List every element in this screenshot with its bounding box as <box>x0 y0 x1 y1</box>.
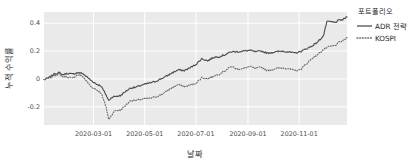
legend-label-adr-strategy: ADR 전략 <box>375 22 407 31</box>
y-tick-label: 0 <box>36 75 40 83</box>
chart-legend: 포트폴리오 ADR 전략 KOSPI <box>357 7 407 43</box>
y-axis-label: 누적 수익률 <box>4 47 14 90</box>
x-tick-label: 2020-05-01 <box>126 130 163 138</box>
y-axis-ticks: -0.200.20.4 <box>28 19 40 111</box>
x-tick-label: 2020-09-01 <box>229 130 266 138</box>
x-axis-label: 날짜 <box>187 149 203 159</box>
cumulative-return-line-chart: -0.200.20.4 2020-03-012020-05-012020-07-… <box>0 0 412 163</box>
y-tick-label: 0.4 <box>30 19 40 27</box>
y-tick-label: 0.2 <box>30 47 40 55</box>
x-axis-ticks: 2020-03-012020-05-012020-07-012020-09-01… <box>75 130 318 138</box>
legend-label-kospi: KOSPI <box>375 34 396 43</box>
chart-figure: -0.200.20.4 2020-03-012020-05-012020-07-… <box>0 0 412 163</box>
x-tick-label: 2020-03-01 <box>75 130 112 138</box>
x-tick-label: 2020-07-01 <box>177 130 214 138</box>
y-tick-label: -0.2 <box>28 103 40 111</box>
x-tick-label: 2020-11-01 <box>281 130 318 138</box>
legend-title: 포트폴리오 <box>358 7 393 16</box>
